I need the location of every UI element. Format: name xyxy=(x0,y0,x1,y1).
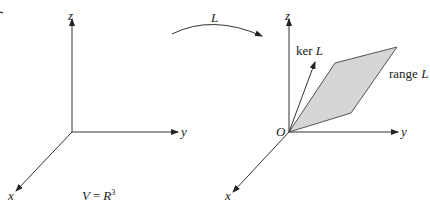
right-z-label: z xyxy=(284,8,290,23)
left-x-axis xyxy=(16,132,72,191)
left-z-label: z xyxy=(67,8,73,23)
right-x-axis xyxy=(233,132,289,192)
mapping-arrow: L xyxy=(172,10,262,36)
left-coordinate-system: z y x V=R3 xyxy=(7,8,187,203)
right-x-label: x xyxy=(224,188,231,203)
origin-label: O xyxy=(276,124,286,139)
range-label: range L xyxy=(389,66,428,81)
linear-map-diagram: z y x V=R3 L z y x O ker L range L xyxy=(0,0,430,208)
left-x-label: x xyxy=(7,188,14,203)
mapping-label: L xyxy=(210,10,218,25)
left-y-label: y xyxy=(179,124,187,139)
kernel-label: ker L xyxy=(296,43,323,58)
right-coordinate-system: z y x O ker L range L xyxy=(224,8,428,203)
space-caption: V=R3 xyxy=(82,188,115,203)
right-y-label: y xyxy=(399,124,407,139)
stray-arrow-mark xyxy=(0,12,3,13)
